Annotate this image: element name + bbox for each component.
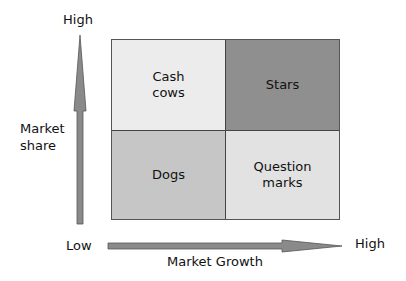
quadrant-label: Dogs [152, 167, 185, 183]
x-axis-low-label: Low [66, 238, 92, 253]
y-axis-title: Market share [20, 120, 65, 154]
y-axis-high-label: High [63, 12, 93, 27]
x-axis-high-label: High [355, 236, 385, 251]
y-axis-arrow-icon [70, 33, 90, 228]
x-axis-arrow-icon [106, 239, 346, 253]
quadrant-label: Question marks [253, 159, 311, 191]
quadrant-question-marks: Question marks [226, 131, 339, 219]
quadrant-cash-cows: Cash cows [112, 40, 226, 131]
matrix-grid: Cash cows Stars Dogs Question marks [111, 39, 340, 220]
quadrant-label: Stars [266, 77, 299, 93]
quadrant-dogs: Dogs [112, 131, 226, 219]
quadrant-label: Cash cows [152, 69, 185, 101]
x-axis-title: Market Growth [167, 254, 263, 269]
quadrant-stars: Stars [226, 40, 339, 131]
